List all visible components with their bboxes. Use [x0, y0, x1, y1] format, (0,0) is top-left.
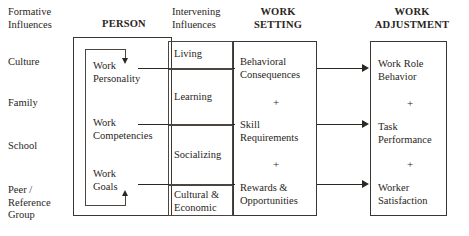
work-adjustment-item-work-role-behavior: Work Role Behavior: [378, 58, 450, 83]
arrow-line-to-task-performance: [317, 124, 363, 125]
arrow-head-to-work-role-behavior-icon: [362, 64, 369, 72]
intervening-item-living: Living: [174, 48, 232, 61]
person-feedback-loop-left: [85, 49, 86, 205]
work-adjustment-item-task-performance: Task Performance: [378, 121, 452, 146]
connector-person-to-socializing: [138, 124, 169, 125]
person-item-work-goals: Work Goals: [93, 168, 169, 193]
person-feedback-loop-bottom-up-stem: [125, 196, 126, 205]
connector-living-to-work-setting: [232, 68, 235, 69]
arrow-head-to-worker-satisfaction-icon: [362, 180, 369, 188]
formative-item-peer-reference-group: Peer / Reference Group: [8, 184, 72, 222]
work-setting-separator-2: +: [240, 158, 312, 170]
column-header-work-adjustment: WORK ADJUSTMENT: [362, 6, 462, 31]
formative-item-school: School: [8, 140, 72, 153]
work-adjustment-item-worker-satisfaction: Worker Satisfaction: [378, 182, 452, 207]
work-adjustment-separator-2: +: [378, 158, 442, 170]
connector-cultural-to-work-setting: [232, 184, 235, 185]
person-item-work-personality: Work Personality: [93, 60, 169, 85]
arrow-head-to-task-performance-icon: [362, 120, 369, 128]
intervening-item-cultural-economic: Cultural & Economic: [174, 189, 236, 214]
connector-person-to-cultural-economic: [138, 184, 169, 185]
arrow-line-to-work-role-behavior: [317, 68, 363, 69]
intervening-item-learning: Learning: [174, 91, 232, 104]
person-feedback-loop-top: [85, 49, 126, 50]
work-setting-item-behavioral-consequences: Behavioral Consequences: [240, 56, 320, 81]
column-header-intervening-influences: Intervening Influences: [172, 6, 246, 31]
column-header-person: PERSON: [74, 18, 174, 31]
work-setting-separator-1: +: [240, 96, 312, 108]
connector-person-to-living: [138, 68, 169, 69]
diagram-canvas: Formative Influences PERSON Intervening …: [0, 0, 469, 236]
intervening-item-socializing: Socializing: [174, 149, 234, 162]
arrow-line-to-worker-satisfaction: [317, 184, 363, 185]
work-adjustment-separator-1: +: [378, 97, 442, 109]
formative-item-family: Family: [8, 97, 72, 110]
formative-item-culture: Culture: [8, 56, 72, 69]
connector-socializing-to-work-setting: [232, 124, 235, 125]
work-setting-item-skill-requirements: Skill Requirements: [240, 119, 320, 144]
work-setting-item-rewards-opportunities: Rewards & Opportunities: [240, 182, 324, 207]
person-feedback-loop-bottom: [85, 205, 126, 206]
column-header-work-setting: WORK SETTING: [236, 6, 320, 31]
person-item-work-competencies: Work Competencies: [93, 117, 173, 142]
